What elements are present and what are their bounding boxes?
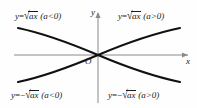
x-axis-label: x (186, 57, 190, 66)
radical-group: √ax (122, 90, 136, 100)
radical-group: √ax (127, 11, 141, 21)
equation-label-upper-right: y=√ax (a>0) (118, 11, 164, 21)
radicand: ax (29, 90, 39, 100)
math-figure-sqrt-ax: y=√ax (a<0) y=√ax (a>0) y=−√ax (a<0) y=−… (0, 0, 197, 108)
equation-condition: (a>0) (143, 11, 164, 21)
radicand: ax (126, 90, 136, 100)
radicand: ax (28, 11, 38, 21)
equation-condition: (a<0) (40, 11, 61, 21)
curve-lower-right (98, 55, 180, 82)
equation-label-lower-right: y=−√ax (a>0) (108, 90, 159, 100)
curve-upper-left (18, 28, 98, 55)
y-axis-arrowhead (95, 12, 100, 18)
radical-group: √ax (25, 90, 39, 100)
equation-label-upper-left: y=√ax (a<0) (15, 11, 61, 21)
radical-group: √ax (24, 11, 38, 21)
curve-upper-right (98, 28, 180, 55)
equation-condition: (a>0) (138, 90, 159, 100)
radicand: ax (131, 11, 141, 21)
origin-label: O (85, 57, 92, 66)
equation-label-lower-left: y=−√ax (a<0) (11, 90, 62, 100)
equation-condition: (a<0) (41, 90, 62, 100)
y-axis-label: y (91, 8, 95, 17)
